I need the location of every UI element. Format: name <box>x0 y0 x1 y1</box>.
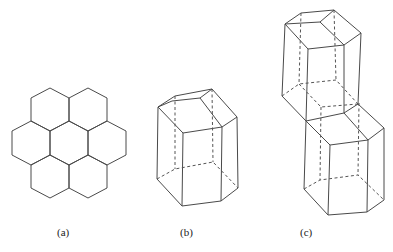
panel-label-b: (b) <box>180 226 193 238</box>
honeycomb-diagram <box>12 88 126 198</box>
panel-label-a: (a) <box>57 226 69 238</box>
figure-canvas <box>0 0 393 252</box>
hexagonal-prism <box>157 89 238 206</box>
panel-label-c: (c) <box>300 226 312 238</box>
stacked-hexagonal-prisms <box>282 10 384 215</box>
